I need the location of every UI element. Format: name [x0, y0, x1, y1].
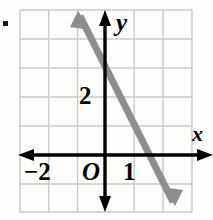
y-axis-label: y — [116, 10, 127, 35]
graph-figure: y x 2 1 O −2 — [0, 0, 213, 220]
coordinate-plane — [0, 0, 213, 220]
x-tick-label-1: 1 — [123, 159, 136, 184]
y-tick-label-2: 2 — [79, 83, 92, 108]
origin-label: O — [82, 159, 100, 184]
x-axis-label: x — [192, 123, 203, 145]
x-tick-label-negative-2: −2 — [24, 159, 51, 184]
x-axis-arrow-right — [197, 149, 213, 161]
